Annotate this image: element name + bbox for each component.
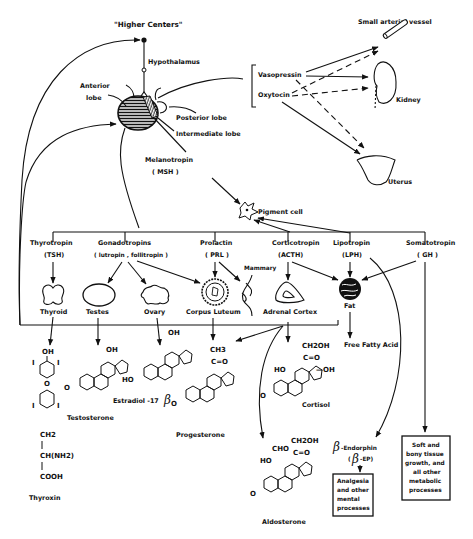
hormone-abbr-corticotropin: (ACTH) xyxy=(278,251,303,259)
thyroxin-structure: OH I I O I I CH2 CH(NH2) COOH Thyroxin xyxy=(29,317,74,502)
melanotropin-label: Melanotropin xyxy=(145,156,193,164)
chem-oh: OH xyxy=(106,346,118,354)
soft-tissue-line: metabolic xyxy=(409,478,442,484)
adrenal-to-aldosterone-arrow xyxy=(259,326,283,438)
posterior-bracket xyxy=(252,65,256,107)
thyroid-to-thyroxin-arrow xyxy=(50,317,53,345)
cortisol-structure: CH2OH C=O —OH HO O Cortisol xyxy=(236,322,335,409)
hormone-name-prolactin: Prolactin xyxy=(200,239,233,247)
hormone-labels: Thyrotropin (TSH) Gonadotropins ( lutrop… xyxy=(30,239,456,259)
mammary-icon xyxy=(242,275,252,316)
gonad-to-ovary-arrow xyxy=(128,262,146,284)
hormone-abbr-tsh: (TSH) xyxy=(44,251,64,259)
prl-to-mammary-arrow xyxy=(219,262,240,281)
vasopressin-to-uterus-arrow xyxy=(296,80,364,148)
chem-i: I xyxy=(57,359,60,367)
acth-to-fat-arrow xyxy=(292,262,338,280)
hormone-abbr-prolactin: ( PRL ) xyxy=(205,251,229,259)
chem-oh: —OH xyxy=(316,366,335,374)
hypothalamus-node xyxy=(142,68,146,72)
posterior-lobe-leader xyxy=(169,107,196,113)
posterior-to-bracket-line xyxy=(158,78,243,98)
uterus-label: Uterus xyxy=(388,178,412,186)
chem-ch2oh: CH2OH xyxy=(302,342,330,350)
oxytocin-label: Oxytocin xyxy=(258,91,290,99)
beta-ep-open: ( xyxy=(348,456,351,462)
chem-c-eq-o: C=O xyxy=(211,358,228,366)
thyroxin-ring-2 xyxy=(40,390,54,408)
hormone-abbr-gonadotropins: ( lutropin , follitropin ) xyxy=(94,252,168,259)
beta-endorphin-label: -Endorphin xyxy=(341,445,377,452)
intermediate-lobe-label: Intermediate lobe xyxy=(176,130,241,138)
soft-tissue-group: Soft and bony tissue growth, and all oth… xyxy=(402,436,450,500)
thyroxin-ring-1 xyxy=(40,361,54,378)
testes-label: Testes xyxy=(86,308,109,316)
free-fatty-acid-label: Free Fatty Acid xyxy=(344,341,399,349)
pigment-cell-group: Pigment cell xyxy=(212,178,350,233)
chem-ch-nh2: CH(NH2) xyxy=(40,452,74,460)
hormone-abbr-lipotropin: (LPH) xyxy=(342,251,362,259)
chem-oh: OH xyxy=(42,348,54,356)
pituitary-gland: Anterior lobe Posterior lobe Intermediat… xyxy=(26,78,243,228)
testosterone-label: Testosterone xyxy=(67,414,114,422)
soft-tissue-line: Soft and xyxy=(412,442,440,448)
thyroxin-label: Thyroxin xyxy=(29,494,61,502)
hormone-name-gonadotropins: Gonadotropins xyxy=(98,239,151,247)
beta-symbol: β xyxy=(332,440,340,454)
msh-to-pigment-arrow xyxy=(212,178,240,204)
analgesia-line: processes xyxy=(337,505,370,512)
chem-ch2: CH2 xyxy=(40,431,56,439)
kidney-label: Kidney xyxy=(396,96,422,104)
chem-oh: OH xyxy=(168,329,180,337)
fat-icon xyxy=(339,278,361,300)
chem-ch3: CH3 xyxy=(210,346,226,354)
hormone-name-somatotropin: Somatotropin xyxy=(406,239,456,247)
chem-cooh: COOH xyxy=(40,473,63,481)
fat-label: Fat xyxy=(344,302,355,310)
hormone-abbr-somatotropin: ( GH ) xyxy=(417,251,438,259)
chem-c-eq-o: C=O xyxy=(303,354,320,362)
adrenal-medulla xyxy=(283,291,294,298)
ovary-to-estradiol-arrow xyxy=(157,318,160,345)
oxytocin-to-vessel-arrow xyxy=(292,51,378,93)
higher-centers-label: "Higher Centers" xyxy=(114,20,183,29)
oxytocin-to-uterus-arrow xyxy=(282,102,360,154)
testes-icon xyxy=(83,284,115,306)
chem-i: I xyxy=(32,359,35,367)
oxytocin-to-kidney-arrow xyxy=(292,88,368,96)
chem-i: I xyxy=(32,402,35,410)
soft-tissue-line: bony tissue xyxy=(406,451,444,458)
pigment-cell-label: Pigment cell xyxy=(258,208,303,216)
beta-ep-label: -EP) xyxy=(360,456,374,462)
anterior-lobe-label-1: Anterior xyxy=(80,82,111,90)
hormone-name-corticotropin: Corticotropin xyxy=(272,239,320,247)
msh-label: ( MSH ) xyxy=(152,168,179,176)
corpus-luteum-core xyxy=(212,287,218,296)
soft-tissue-line: processes xyxy=(409,487,442,494)
soft-tissue-line: all other xyxy=(413,469,441,475)
aldosterone-label: Aldosterone xyxy=(262,518,306,526)
vasopressin-to-kidney-arrow xyxy=(306,76,368,77)
gh-to-fat-arrow xyxy=(362,261,416,280)
vasopressin-label: Vasopressin xyxy=(258,71,302,79)
chem-o: O xyxy=(64,384,70,392)
cortisol-label: Cortisol xyxy=(302,401,330,409)
chem-o: O xyxy=(171,400,177,408)
ovary-label: Ovary xyxy=(144,308,166,316)
progesterone-structure: CH3 C=O O Progesterone xyxy=(171,318,234,439)
hormone-name-lipotropin: Lipotropin xyxy=(333,239,371,247)
chem-o: O xyxy=(260,392,266,400)
anterior-lobe-label-2: lobe xyxy=(86,94,102,102)
gonad-to-testes-arrow xyxy=(108,262,122,283)
testosterone-structure: O OH Testosterone xyxy=(64,318,128,422)
anterior-to-gonadotropin-line xyxy=(120,128,139,228)
chem-o: O xyxy=(44,380,50,388)
gonad-to-corpus-luteum-arrow xyxy=(137,261,200,283)
hormone-name-tsh: Thyrotropin xyxy=(30,239,73,247)
chem-cho: CHO xyxy=(272,445,289,453)
adrenal-cortex-label: Adrenal Cortex xyxy=(263,308,318,316)
chem-ho: HO xyxy=(122,376,134,384)
thyroid-label: Thyroid xyxy=(40,308,68,316)
soft-tissue-line: growth, and xyxy=(405,460,445,467)
feedback-to-anterior-arrow xyxy=(26,124,116,182)
